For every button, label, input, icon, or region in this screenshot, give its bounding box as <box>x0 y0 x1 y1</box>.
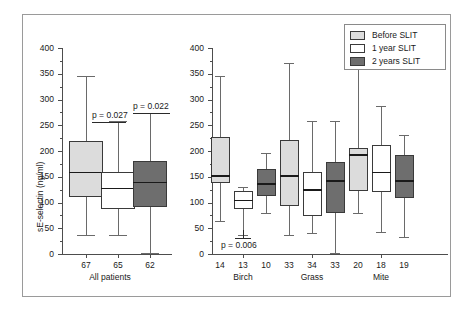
legend-swatch-before-slit <box>350 31 365 40</box>
whisker-cap-lower <box>330 253 340 254</box>
x-count-label: 33 <box>323 261 347 270</box>
y-tick-minor <box>210 87 212 88</box>
legend: Before SLIT 1 year SLIT 2 years SLIT <box>344 24 446 70</box>
p-bracket-line <box>235 238 251 239</box>
y-tick-minor <box>210 215 212 216</box>
y-tick-major <box>208 203 212 204</box>
median-line <box>234 200 253 202</box>
legend-item-before-slit: Before SLIT <box>350 29 440 41</box>
x-count-label: 14 <box>208 261 232 270</box>
whisker-cap-lower <box>307 233 317 234</box>
legend-label-1-year-slit: 1 year SLIT <box>372 44 416 53</box>
y-tick-label: 350 <box>178 69 204 77</box>
whisker-cap-upper <box>215 76 225 77</box>
median-line <box>372 172 391 174</box>
y-tick-label: 200 <box>178 147 204 155</box>
y-tick-label: 0 <box>178 250 204 258</box>
x-count-label: 10 <box>254 261 278 270</box>
y-tick-major <box>208 48 212 49</box>
y-tick-major <box>208 228 212 229</box>
median-line <box>395 180 414 182</box>
x-group-label: Mite <box>351 273 411 282</box>
y-tick-major <box>208 125 212 126</box>
box-body <box>395 155 414 198</box>
legend-item-1-year-slit: 1 year SLIT <box>350 42 440 54</box>
x-count-label: 33 <box>277 261 301 270</box>
x-group-label: Grass <box>282 273 342 282</box>
y-tick-major <box>208 100 212 101</box>
y-tick-label: 250 <box>178 121 204 129</box>
y-tick-label: 100 <box>178 198 204 206</box>
legend-swatch-2-years-slit <box>350 57 365 66</box>
whisker-cap-lower <box>261 213 271 214</box>
y-tick-label: 50 <box>178 224 204 232</box>
x-tick <box>312 255 313 258</box>
legend-swatch-1-year-slit <box>350 44 365 53</box>
legend-label-2-years-slit: 2 years SLIT <box>372 57 420 66</box>
whisker-cap-lower <box>376 232 386 233</box>
x-group-label: Birch <box>213 273 273 282</box>
median-line <box>280 175 299 177</box>
x-count-label: 34 <box>300 261 324 270</box>
whisker-cap-lower <box>284 235 294 236</box>
x-count-label: 18 <box>369 261 393 270</box>
whisker-cap-lower <box>399 237 409 238</box>
p-value-text: p = 0.006 <box>221 241 257 250</box>
y-tick-label: 150 <box>178 172 204 180</box>
x-axis <box>212 254 448 255</box>
y-tick-major <box>208 74 212 75</box>
box-body <box>372 145 391 192</box>
box-body <box>326 162 345 212</box>
box-body <box>303 172 322 216</box>
median-line <box>257 183 276 185</box>
legend-item-2-years-slit: 2 years SLIT <box>350 55 440 67</box>
y-tick-minor <box>210 241 212 242</box>
whisker-cap-upper <box>284 63 294 64</box>
x-tick <box>381 255 382 258</box>
figure-boxplot-se-selectin: sE-selectin (ng/ml) 05010015020025030035… <box>0 0 459 311</box>
y-tick-label: 400 <box>178 44 204 52</box>
x-count-label: 19 <box>392 261 416 270</box>
whisker-cap-upper <box>307 121 317 122</box>
x-count-label: 13 <box>231 261 255 270</box>
whisker-cap-upper <box>261 153 271 154</box>
x-tick <box>243 255 244 258</box>
y-tick-minor <box>210 61 212 62</box>
x-count-label: 20 <box>346 261 370 270</box>
p-bracket-stem <box>243 230 244 238</box>
whisker-cap-upper <box>376 106 386 107</box>
y-tick-minor <box>210 112 212 113</box>
median-line <box>211 175 230 177</box>
median-line <box>326 180 345 182</box>
whisker-cap-upper <box>330 121 340 122</box>
whisker-cap-upper <box>238 187 248 188</box>
y-tick-label: 300 <box>178 95 204 103</box>
whisker-cap-lower <box>353 213 363 214</box>
median-line <box>349 154 368 156</box>
box-body <box>280 140 299 206</box>
whisker-cap-lower <box>215 221 225 222</box>
median-line <box>303 189 322 191</box>
whisker-cap-upper <box>399 135 409 136</box>
legend-label-before-slit: Before SLIT <box>372 31 417 40</box>
y-tick-minor <box>210 190 212 191</box>
